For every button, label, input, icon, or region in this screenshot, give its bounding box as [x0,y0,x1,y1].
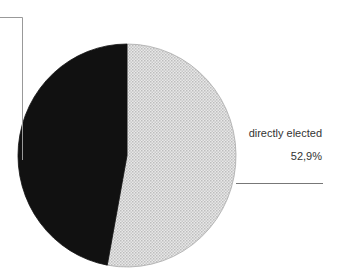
pie-chart [0,0,339,279]
slice-label-name: directly elected [249,127,322,139]
pie-slice-2 [18,44,127,265]
slice-label-value: 52,9% [291,150,322,162]
